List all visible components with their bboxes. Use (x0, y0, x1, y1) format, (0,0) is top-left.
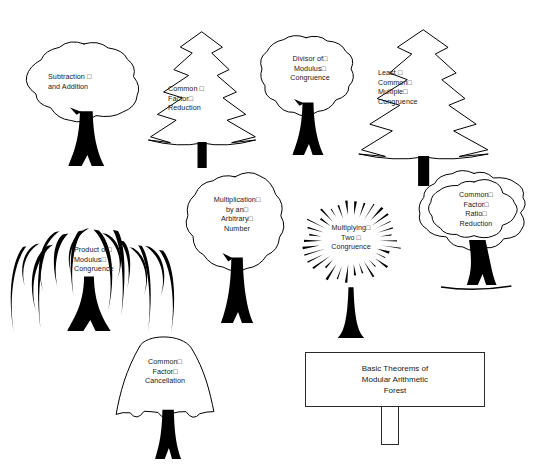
product-of-modulus-congruence-shape (26, 205, 166, 335)
forest-sign-text-line-2: Modular Arithmetic (362, 374, 429, 385)
common-factor-ratio-reduction-shape (419, 168, 529, 293)
common-factor-reduction-tree: Common □Factor□Reduction (146, 30, 258, 170)
multiplying-two-congruence-shape (293, 185, 409, 340)
forest-sign-text: Basic Theorems ofModular ArithmeticFores… (362, 363, 429, 396)
common-factor-reduction-shape (146, 30, 258, 170)
forest-sign-text-line-1: Basic Theorems of (362, 363, 429, 374)
multiplication-by-arbitrary-number-shape (183, 170, 287, 325)
common-factor-cancellation-shape (113, 333, 217, 461)
common-factor-ratio-reduction-tree: Common□Factor□Ratio□Reduction (419, 168, 529, 293)
forest-sign-board: Basic Theorems ofModular ArithmeticFores… (305, 352, 485, 407)
multiplying-two-congruence-tree: Multiplying□Two □Congruence (293, 185, 409, 340)
forest-sign-text-line-3: Forest (362, 385, 429, 396)
product-of-modulus-congruence-tree: Product of□Modulus□Congruence (26, 205, 166, 335)
subtraction-and-addition-tree: Subtraction □and Addition (26, 38, 142, 168)
least-common-multiple-congruence-shape (356, 28, 491, 188)
divisor-of-modulus-congruence-tree: Divisor of□Modulus□Congruence (256, 32, 356, 157)
forest-sign-post (381, 407, 399, 445)
subtraction-and-addition-shape (26, 38, 142, 168)
least-common-multiple-congruence-tree: Least □Common□Multiple□Congruence (356, 28, 491, 188)
forest-diagram-canvas: Subtraction □and AdditionCommon □Factor□… (0, 0, 537, 464)
common-factor-cancellation-tree: Common□Factor□Cancellation (113, 333, 217, 461)
multiplication-by-arbitrary-number-tree: Multiplication□by an□Arbitrary□Number (183, 170, 287, 325)
forest-sign: Basic Theorems ofModular ArithmeticFores… (305, 352, 485, 445)
divisor-of-modulus-congruence-shape (256, 32, 356, 157)
